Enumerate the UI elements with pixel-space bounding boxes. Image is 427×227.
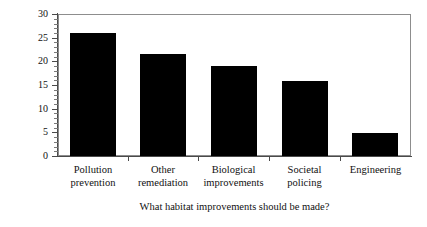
y-tick-minor-6 [54, 128, 58, 129]
y-tick-minor-16 [54, 80, 58, 81]
y-tick-10 [52, 109, 58, 110]
y-tick-minor-28 [54, 24, 58, 25]
y-tick-minor-12 [54, 99, 58, 100]
y-tick-minor-26 [54, 33, 58, 34]
y-tick-5 [52, 132, 58, 133]
x-axis-title: What habitat improvements should be made… [58, 200, 411, 213]
x-label-line-2: improvements [196, 177, 271, 190]
y-tick-minor-1 [54, 151, 58, 152]
y-tick-minor-11 [54, 104, 58, 105]
y-tick-minor-17 [54, 76, 58, 77]
y-tick-20 [52, 61, 58, 62]
x-label-engineering: Engineering [340, 164, 411, 177]
x-label-pollution-prevention: Pollution prevention [58, 164, 128, 189]
y-tick-minor-8 [54, 118, 58, 119]
x-tick-2 [198, 156, 199, 161]
x-label-line-1: Biological [196, 164, 271, 177]
y-tick-minor-21 [54, 57, 58, 58]
y-tick-minor-22 [54, 52, 58, 53]
y-tick-label-30: 30 [8, 9, 48, 19]
y-tick-0 [52, 156, 58, 157]
x-label-line-2: policing [269, 177, 340, 190]
y-tick-minor-19 [54, 66, 58, 67]
bar-engineering [352, 133, 398, 156]
y-tick-minor-9 [54, 113, 58, 114]
y-tick-minor-24 [54, 42, 58, 43]
x-label-biological-improvements: Biological improvements [196, 164, 271, 189]
bar-chart-figure: Percent of respondents 0 5 10 15 20 25 3… [0, 0, 427, 227]
x-label-other-remediation: Other remediation [128, 164, 198, 189]
x-tick-3 [269, 156, 270, 161]
y-tick-minor-4 [54, 137, 58, 138]
y-tick-minor-7 [54, 123, 58, 124]
y-tick-label-15: 15 [8, 80, 48, 90]
bar-pollution-prevention [70, 33, 116, 156]
y-tick-minor-2 [54, 147, 58, 148]
y-tick-minor-18 [54, 71, 58, 72]
bar-biological-improvements [211, 66, 257, 156]
y-tick-label-25: 25 [8, 33, 48, 43]
x-tick-4 [340, 156, 341, 161]
x-tick-1 [128, 156, 129, 161]
y-tick-30 [52, 14, 58, 15]
y-tick-minor-3 [54, 142, 58, 143]
x-label-line-1: Pollution [58, 164, 128, 177]
bar-other-remediation [140, 54, 186, 156]
x-label-line-1: Other [128, 164, 198, 177]
y-tick-minor-14 [54, 90, 58, 91]
y-tick-15 [52, 85, 58, 86]
y-tick-minor-27 [54, 28, 58, 29]
x-label-line-2: remediation [128, 177, 198, 190]
y-tick-label-0: 0 [8, 151, 48, 161]
y-tick-label-10: 10 [8, 104, 48, 114]
x-label-line-1: Societal [269, 164, 340, 177]
y-tick-minor-13 [54, 95, 58, 96]
y-tick-label-20: 20 [8, 56, 48, 66]
x-label-line-1: Engineering [340, 164, 411, 177]
bar-societal-policing [282, 81, 328, 156]
y-tick-minor-23 [54, 47, 58, 48]
y-tick-25 [52, 38, 58, 39]
y-tick-label-5: 5 [8, 127, 48, 137]
x-label-societal-policing: Societal policing [269, 164, 340, 189]
y-tick-minor-29 [54, 19, 58, 20]
x-label-line-2: prevention [58, 177, 128, 190]
x-axis-line [57, 156, 412, 157]
